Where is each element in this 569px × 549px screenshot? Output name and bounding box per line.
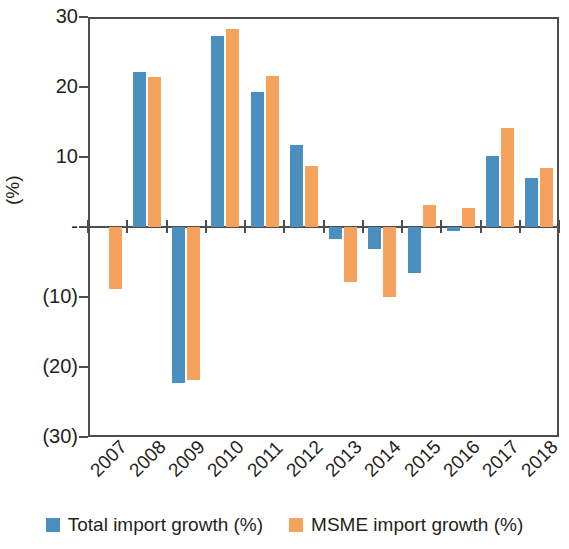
- bar-total-2010: [211, 36, 224, 227]
- y-axis-tick-label: 30: [22, 5, 78, 28]
- bar-msme-2013: [344, 227, 357, 282]
- bar-msme-2016: [462, 208, 475, 227]
- bar-msme-2012: [305, 166, 318, 227]
- x-axis-tick: [283, 220, 285, 233]
- bar-msme-2015: [423, 205, 436, 227]
- x-axis-tick: [519, 220, 521, 233]
- y-axis-tick-label: (20): [22, 355, 78, 378]
- bar-chart: (%) 302010-(10)(20)(30) 2007200820092010…: [0, 0, 569, 549]
- chart-legend: Total import growth (%)MSME import growt…: [0, 514, 569, 536]
- x-axis-tick: [323, 220, 325, 233]
- x-axis-tick-label: 2008: [125, 436, 170, 481]
- bar-total-2013: [329, 227, 342, 239]
- x-axis-tick: [87, 220, 89, 233]
- x-axis-tick: [401, 220, 403, 233]
- bar-total-2014: [368, 227, 381, 249]
- legend-item-msme[interactable]: MSME import growth (%): [289, 514, 523, 536]
- legend-swatch-icon: [46, 518, 60, 532]
- x-axis-tick: [362, 220, 364, 233]
- bar-total-2012: [290, 145, 303, 227]
- y-axis-tick-label: (30): [22, 425, 78, 448]
- y-axis-tick-label: -: [22, 215, 78, 238]
- y-axis-tick-label: 20: [22, 75, 78, 98]
- y-axis-tick: [79, 16, 88, 18]
- y-axis-tick: [79, 366, 88, 368]
- bar-msme-2008: [148, 77, 161, 228]
- x-axis-tick-label: 2009: [164, 436, 209, 481]
- y-axis-tick: [79, 86, 88, 88]
- bar-total-2009: [172, 227, 185, 383]
- x-axis-tick: [126, 220, 128, 233]
- y-axis-title: (%): [2, 175, 24, 205]
- x-axis-tick-labels: 2007200820092010201120122013201420152016…: [88, 440, 559, 508]
- plot-area: [88, 17, 559, 437]
- bar-total-2015: [408, 227, 421, 273]
- x-axis-tick-label: 2018: [517, 436, 562, 481]
- y-axis-tick-label: 10: [22, 145, 78, 168]
- x-axis-tick: [166, 220, 168, 233]
- x-axis-tick-label: 2007: [86, 436, 131, 481]
- y-axis-tick: [79, 296, 88, 298]
- x-axis-tick: [480, 220, 482, 233]
- x-axis-tick-label: 2017: [478, 436, 523, 481]
- y-axis-tick-label: (10): [22, 285, 78, 308]
- bar-msme-2011: [266, 76, 279, 227]
- legend-label: MSME import growth (%): [311, 514, 523, 536]
- bar-msme-2014: [383, 227, 396, 297]
- x-axis-tick: [244, 220, 246, 233]
- bar-msme-2018: [540, 168, 553, 228]
- x-axis-tick-label: 2016: [439, 436, 484, 481]
- x-axis-tick-label: 2013: [321, 436, 366, 481]
- bar-msme-2009: [187, 227, 200, 380]
- bar-total-2017: [486, 156, 499, 227]
- bar-total-2016: [447, 227, 460, 231]
- x-axis-tick: [440, 220, 442, 233]
- bar-total-2011: [251, 92, 264, 227]
- legend-swatch-icon: [289, 518, 303, 532]
- x-axis-tick-label: 2011: [243, 437, 287, 481]
- x-axis-tick-label: 2010: [203, 436, 248, 481]
- legend-item-total[interactable]: Total import growth (%): [46, 514, 263, 536]
- bar-total-2008: [133, 72, 146, 227]
- bar-msme-2017: [501, 128, 514, 227]
- x-axis-tick-label: 2014: [360, 436, 405, 481]
- bar-msme-2010: [226, 29, 239, 227]
- x-axis-tick-label: 2012: [282, 436, 327, 481]
- x-axis-tick: [205, 220, 207, 233]
- bar-total-2018: [525, 178, 538, 227]
- bar-msme-2007: [109, 227, 122, 289]
- legend-label: Total import growth (%): [68, 514, 263, 536]
- x-axis-tick: [558, 220, 560, 233]
- y-axis-tick: [79, 436, 88, 438]
- x-axis-tick-label: 2015: [400, 436, 445, 481]
- y-axis-tick: [79, 156, 88, 158]
